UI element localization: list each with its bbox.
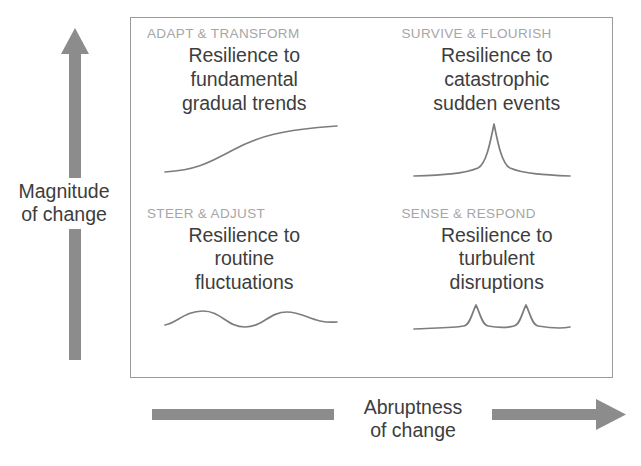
resilience-matrix-diagram: Magnitude of change Abruptness of change…	[0, 0, 641, 466]
quadrant-description: Resilience to turbulent disruptions	[382, 224, 613, 295]
quadrant-survive-flourish: SURVIVE & FLOURISH Resilience to catastr…	[372, 18, 613, 198]
vertical-axis-label: Magnitude of change	[0, 178, 128, 229]
quadrant-sense-respond: SENSE & RESPOND Resilience to turbulent …	[372, 198, 613, 378]
quadrant-heading: SENSE & RESPOND	[382, 206, 613, 221]
quadrant-heading: STEER & ADJUST	[131, 206, 358, 221]
quadrant-heading: SURVIVE & FLOURISH	[382, 26, 613, 41]
quadrant-description: Resilience to routine fluctuations	[131, 224, 358, 295]
horizontal-axis-label: Abruptness of change	[334, 396, 492, 443]
quadrant-heading: ADAPT & TRANSFORM	[131, 26, 358, 41]
sparkline-s-curve-rising	[131, 120, 372, 192]
sparkline-sine-wave	[131, 299, 372, 371]
quadrant-description: Resilience to catastrophic sudden events	[382, 44, 613, 115]
quadrant-adapt-transform: ADAPT & TRANSFORM Resilience to fundamen…	[131, 18, 372, 198]
quadrant-description: Resilience to fundamental gradual trends	[131, 44, 358, 115]
sparkline-single-tall-spike	[372, 120, 613, 192]
sparkline-two-small-spikes	[372, 299, 613, 371]
matrix-panel: ADAPT & TRANSFORM Resilience to fundamen…	[130, 17, 613, 378]
quadrant-steer-adjust: STEER & ADJUST Resilience to routine flu…	[131, 198, 372, 378]
